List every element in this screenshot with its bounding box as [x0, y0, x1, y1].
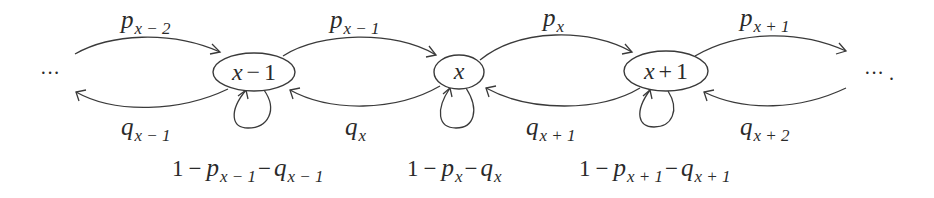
- self-loop-label-x-minus-1: 1−px − 1−qx − 1: [172, 154, 324, 186]
- markov-chain-diagram: x−1 x x+1 ··· ··· . px − 2 px − 1 px px …: [0, 0, 934, 198]
- backward-edge-x-to-x-minus-1: [290, 86, 440, 106]
- edge-label-p-x-minus-2: px − 2: [119, 6, 171, 38]
- arrowhead-icon: [76, 90, 86, 101]
- edge-label-q-x-minus-1: qx − 1: [121, 113, 171, 145]
- left-ellipsis: ···: [40, 62, 60, 84]
- edge-label-p-x-minus-1: px − 1: [328, 6, 380, 38]
- arrowhead-icon: [290, 88, 300, 99]
- forward-edge-x-plus-1-to-right: [695, 36, 846, 56]
- self-loop-x-plus-1: [640, 90, 674, 127]
- edge-label-q-x-plus-2: qx + 2: [740, 113, 790, 145]
- self-loop-label-x-plus-1: 1−px + 1−qx + 1: [579, 154, 731, 186]
- self-loop-x-minus-1: [234, 90, 270, 128]
- edge-label-q-x-plus-1: qx + 1: [526, 113, 576, 145]
- backward-edge-x-plus-1-to-x: [486, 86, 640, 106]
- forward-edge-x-to-x-plus-1: [480, 35, 632, 60]
- arrowhead-icon: [486, 86, 496, 97]
- backward-edge-x-minus-1-to-left: [76, 89, 228, 107]
- node-x-minus-1: x−1: [213, 53, 295, 91]
- node-x: x: [434, 55, 484, 89]
- backward-edge-right-to-x-plus-1: [704, 88, 846, 106]
- self-loop-x: [440, 88, 473, 128]
- forward-edge-left-to-x-minus-1: [75, 37, 220, 54]
- edge-label-p-x-plus-1: px + 1: [738, 4, 790, 36]
- node-label: x−1: [231, 59, 276, 85]
- forward-edge-x-minus-1-to-x: [283, 37, 436, 57]
- node-x-plus-1: x+1: [624, 51, 708, 91]
- right-ellipsis: ··· .: [864, 62, 894, 84]
- node-label: x+1: [643, 58, 688, 84]
- self-loop-label-x: 1−px−qx: [407, 154, 502, 186]
- diagram-canvas: x−1 x x+1 ··· ··· . px − 2 px − 1 px px …: [0, 0, 934, 198]
- edge-label-q-x: qx: [345, 113, 367, 145]
- node-label: x: [453, 58, 465, 84]
- edge-label-p-x: px: [541, 4, 565, 36]
